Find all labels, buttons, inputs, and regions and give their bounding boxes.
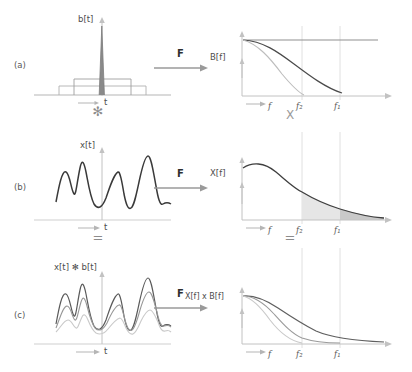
fourier-arrow-label-a: F (177, 48, 184, 59)
figure-row-b: (b) x[t] t F X[f] (0, 124, 412, 248)
figure-convolution-theorem: (a) b[t] t F (0, 0, 412, 372)
axis-label-a-f: f (268, 101, 271, 111)
plot-c-freq (208, 248, 406, 372)
tick-b-f1: f₁ (334, 225, 341, 235)
axis-label-b-f: f (268, 225, 271, 235)
operator-multiply: X (278, 108, 302, 122)
tick-c-f2: f₂ (296, 349, 303, 359)
figure-row-c: (c) x[t] ✻ b[t] t F X (0, 248, 412, 372)
row-label-a: (a) (14, 60, 26, 70)
panel-a-frequency-domain: B[f] (208, 0, 406, 124)
operator-equals-left: = (86, 230, 110, 245)
fourier-arrow-label-b: F (177, 168, 184, 179)
row-label-c: (c) (14, 310, 25, 320)
tick-c-f1: f₁ (334, 349, 341, 359)
fourier-arrow-icon-b (152, 182, 210, 194)
operator-convolution: ✻ (86, 104, 110, 119)
plot-b-freq (208, 124, 406, 248)
operator-equals-right: = (278, 230, 302, 245)
fourier-arrow-label-c: F (177, 288, 184, 299)
axis-label-c-f: f (268, 349, 271, 359)
fourier-arrow-icon-c (152, 302, 210, 314)
tick-a-f1: f₁ (334, 101, 341, 111)
plot-a-freq (208, 0, 406, 124)
figure-row-a: (a) b[t] t F (0, 0, 412, 124)
row-label-b: (b) (14, 182, 26, 192)
fourier-arrow-icon-a (152, 62, 210, 74)
panel-b-frequency-domain: X[f] f f₂ f₁ (208, 124, 406, 248)
panel-c-frequency-domain: f f₂ f₁ (208, 248, 406, 372)
axis-label-c-t: t (104, 346, 107, 356)
